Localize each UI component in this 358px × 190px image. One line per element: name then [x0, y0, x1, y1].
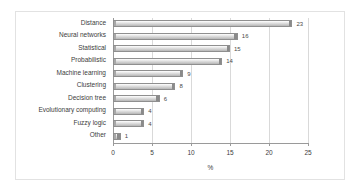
bar	[113, 108, 144, 115]
x-tick-label: 0	[103, 148, 123, 158]
bar-row: 9	[113, 68, 353, 80]
bar-value-label: 23	[296, 19, 303, 30]
category-label: Decision tree	[68, 92, 106, 103]
x-tick-mark	[113, 143, 114, 146]
bar-cap	[180, 71, 183, 76]
bar-origin-notch	[114, 84, 116, 89]
category-label: Evolutionary computing	[38, 104, 106, 115]
bar-cap	[156, 96, 159, 101]
bar-cap	[219, 59, 222, 64]
category-label: Machine learning	[56, 67, 106, 78]
bar-cap	[141, 109, 144, 114]
x-tick-mark	[269, 143, 270, 146]
category-label: Neural networks	[59, 29, 106, 40]
bar	[113, 133, 121, 140]
bar-origin-notch	[114, 71, 116, 76]
category-label: Probabilistic	[71, 54, 106, 65]
bar-row: 6	[113, 93, 353, 105]
bar-cap	[289, 21, 292, 26]
bar-value-label: 1	[125, 131, 128, 142]
bar-value-label: 16	[242, 31, 249, 42]
x-axis-title: %	[113, 164, 308, 171]
x-tick-label: 15	[220, 148, 240, 158]
x-tick-mark	[191, 143, 192, 146]
bar-value-label: 4	[148, 119, 151, 130]
bar-value-label: 14	[226, 56, 233, 67]
x-tick-mark	[308, 143, 309, 146]
bar-value-label: 9	[187, 69, 190, 80]
x-tick-label: 20	[259, 148, 279, 158]
bar-cap	[234, 34, 237, 39]
category-label: Clustering	[77, 79, 106, 90]
bar-origin-notch	[114, 34, 116, 39]
bar	[113, 83, 175, 90]
x-tick-label: 25	[298, 148, 318, 158]
bar-cap	[117, 134, 120, 139]
bar-row: 4	[113, 118, 353, 130]
x-tick-label: 5	[142, 148, 162, 158]
bar-origin-notch	[114, 134, 116, 139]
bar-chart-figure: 23161514986441 DistanceNeural networksSt…	[0, 0, 358, 190]
bar-origin-notch	[114, 121, 116, 126]
bar-cap	[141, 121, 144, 126]
bar-value-label: 15	[234, 44, 241, 55]
x-tick-mark	[230, 143, 231, 146]
bar-origin-notch	[114, 59, 116, 64]
bar-row: 4	[113, 106, 353, 118]
bar-origin-notch	[114, 46, 116, 51]
category-label: Statistical	[78, 42, 106, 53]
bar-row: 23	[113, 18, 353, 30]
bar-value-label: 6	[164, 94, 167, 105]
bar-row: 1	[113, 131, 353, 143]
bar	[113, 20, 292, 27]
bar-cap	[172, 84, 175, 89]
x-tick-label: 10	[181, 148, 201, 158]
bar-origin-notch	[114, 21, 116, 26]
category-label: Fuzzy logic	[73, 117, 106, 128]
bar-origin-notch	[114, 96, 116, 101]
bar	[113, 95, 160, 102]
x-axis-line	[113, 143, 308, 144]
bar-value-label: 8	[179, 81, 182, 92]
bar-row: 15	[113, 43, 353, 55]
x-tick-mark	[152, 143, 153, 146]
bar	[113, 120, 144, 127]
bar	[113, 33, 238, 40]
plot-area: 23161514986441	[113, 18, 308, 143]
bar-row: 8	[113, 81, 353, 93]
bar	[113, 45, 230, 52]
bar-cap	[227, 46, 230, 51]
bar-row: 14	[113, 56, 353, 68]
bar	[113, 58, 222, 65]
bar-row: 16	[113, 31, 353, 43]
bar-value-label: 4	[148, 106, 151, 117]
bar-origin-notch	[114, 109, 116, 114]
bar	[113, 70, 183, 77]
category-label: Distance	[81, 17, 106, 28]
category-label: Other	[90, 129, 106, 140]
